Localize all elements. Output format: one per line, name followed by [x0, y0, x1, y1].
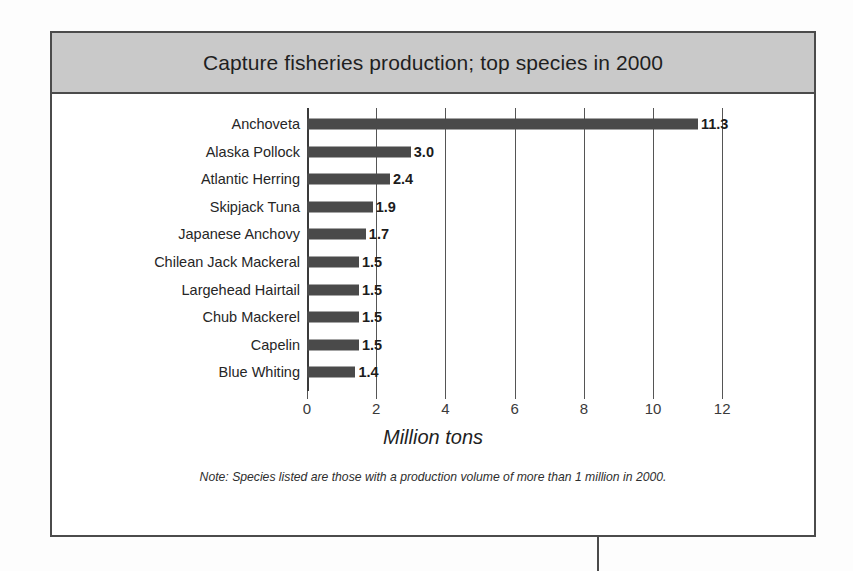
category-label: Chilean Jack Mackeral — [52, 254, 300, 270]
x-tick-label: 12 — [714, 400, 731, 417]
category-label: Blue Whiting — [52, 364, 300, 380]
x-tick-mark-12 — [722, 391, 723, 399]
bar-row: Capelin1.5 — [52, 331, 814, 359]
bar-value-label: 1.5 — [362, 309, 382, 325]
bar-row: Anchoveta11.3 — [52, 110, 814, 138]
bar-row: Chilean Jack Mackeral1.5 — [52, 248, 814, 276]
bar — [307, 284, 359, 295]
bar — [307, 312, 359, 323]
bar-row: Largehead Hairtail1.5 — [52, 276, 814, 304]
category-label: Chub Mackerel — [52, 309, 300, 325]
category-label: Largehead Hairtail — [52, 282, 300, 298]
x-tick-mark-2 — [376, 391, 377, 399]
x-tick-label: 0 — [303, 400, 311, 417]
category-label: Capelin — [52, 337, 300, 353]
bar-value-label: 1.7 — [369, 226, 389, 242]
bar — [307, 201, 373, 212]
bar — [307, 367, 355, 378]
figure-frame: Capture fisheries production; top specie… — [50, 31, 816, 537]
x-tick-label: 2 — [372, 400, 380, 417]
bar — [307, 229, 366, 240]
bar-row: Japanese Anchovy1.7 — [52, 220, 814, 248]
chart-body: 024681012Anchoveta11.3Alaska Pollock3.0A… — [52, 96, 814, 535]
category-label: Skipjack Tuna — [52, 199, 300, 215]
x-tick-label: 6 — [510, 400, 518, 417]
bar-row: Alaska Pollock3.0 — [52, 138, 814, 166]
bar — [307, 257, 359, 268]
bar-value-label: 1.5 — [362, 282, 382, 298]
x-tick-mark-10 — [653, 391, 654, 399]
bar — [307, 146, 411, 157]
bar — [307, 174, 390, 185]
bar — [307, 119, 698, 130]
bar-row: Skipjack Tuna1.9 — [52, 193, 814, 221]
bar-row: Blue Whiting1.4 — [52, 358, 814, 386]
bar-value-label: 2.4 — [393, 171, 413, 187]
bar — [307, 339, 359, 350]
x-axis-title: Million tons — [52, 426, 814, 449]
chart-note: Note: Species listed are those with a pr… — [52, 470, 814, 484]
connector-leader-line — [597, 537, 599, 571]
bar-value-label: 1.5 — [362, 337, 382, 353]
x-tick-label: 8 — [580, 400, 588, 417]
x-tick-mark-0 — [307, 391, 308, 399]
x-tick-mark-4 — [445, 391, 446, 399]
category-label: Japanese Anchovy — [52, 226, 300, 242]
category-label: Anchoveta — [52, 116, 300, 132]
x-tick-mark-8 — [584, 391, 585, 399]
x-tick-label: 10 — [645, 400, 662, 417]
category-label: Alaska Pollock — [52, 144, 300, 160]
bar-row: Atlantic Herring2.4 — [52, 165, 814, 193]
x-tick-mark-6 — [515, 391, 516, 399]
page-title: Capture fisheries production; top specie… — [203, 51, 663, 75]
bar-value-label: 1.4 — [358, 364, 378, 380]
bar-value-label: 3.0 — [414, 144, 434, 160]
plot-area: 024681012Anchoveta11.3Alaska Pollock3.0A… — [52, 108, 814, 391]
bar-value-label: 1.5 — [362, 254, 382, 270]
bar-value-label: 1.9 — [376, 199, 396, 215]
bar-row: Chub Mackerel1.5 — [52, 303, 814, 331]
bar-value-label: 11.3 — [701, 116, 728, 132]
category-label: Atlantic Herring — [52, 171, 300, 187]
chart-title-band: Capture fisheries production; top specie… — [52, 33, 814, 94]
x-tick-label: 4 — [441, 400, 449, 417]
